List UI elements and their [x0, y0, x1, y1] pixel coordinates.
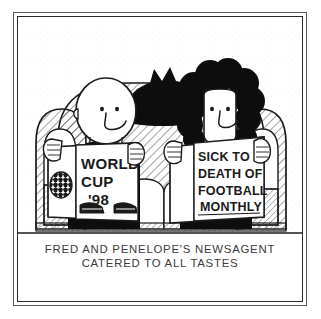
fred-eye-right	[115, 107, 119, 112]
magazine-right-line4: MONTHLY	[200, 200, 263, 214]
soccer-ball-graphic	[50, 172, 72, 198]
magazine-left: WORLD CUP '98	[48, 143, 139, 221]
fred-ear	[74, 109, 78, 119]
magazine-left-line2: CUP	[81, 173, 114, 190]
cartoon-panel: WORLD CUP '98 SICK TO DEATH OF FOOTBALL …	[0, 0, 321, 319]
caption-block: FRED AND PENELOPE'S NEWSAGENT CATERED TO…	[18, 233, 302, 301]
magazine-right: SICK TO DEATH OF FOOTBALL MONTHLY	[170, 137, 268, 223]
magazine-right-line1: SICK TO	[198, 150, 250, 164]
penelope-eye-left	[210, 107, 214, 112]
magazine-left-line3: '98	[88, 191, 109, 208]
caption-line-1: FRED AND PENELOPE'S NEWSAGENT	[45, 242, 275, 256]
fred-head	[76, 78, 136, 144]
fred-eye-left	[100, 107, 104, 112]
penelope-eye-right	[226, 107, 230, 112]
magazine-right-line3: FOOTBALL	[198, 184, 268, 198]
magazine-right-line2: DEATH OF	[198, 167, 263, 181]
caption-line-2: CATERED TO ALL TASTES	[82, 256, 239, 270]
